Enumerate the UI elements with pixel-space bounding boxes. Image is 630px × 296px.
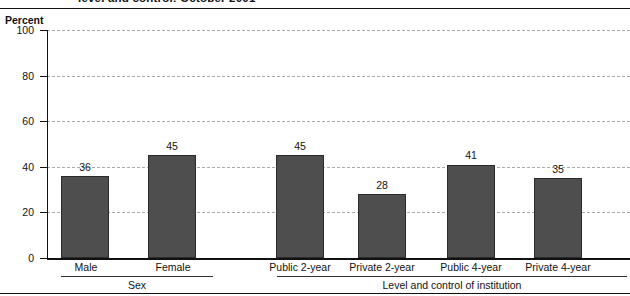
y-tick-label-0: 0 [0,252,34,264]
bar-value-private-4-year: 35 [534,163,582,175]
plot-area: 36 45 45 28 41 35 [47,30,630,258]
y-tick-100 [40,30,48,31]
y-tick-20 [40,212,48,213]
category-label-male: Male [46,261,126,273]
group-label-sex: Sex [61,279,213,291]
category-label-public-2-year: Public 2-year [254,261,346,273]
bar-value-male: 36 [61,161,109,173]
category-label-female: Female [133,261,213,273]
bar-private-4-year [534,178,582,258]
x-axis-line [47,258,630,260]
y-tick-label-100: 100 [0,24,34,36]
y-tick-80 [40,76,48,77]
figure-title-clipped: level and control: October 2001 [78,0,548,2]
gridline-100 [47,30,630,31]
y-tick-label-60: 60 [0,115,34,127]
y-tick-0 [40,258,48,259]
gridline-80 [47,76,630,77]
bar-chart-figure: level and control: October 2001 Percent … [0,0,630,296]
y-tick-label-80: 80 [0,70,34,82]
y-tick-label-20: 20 [0,206,34,218]
title-divider [0,8,630,9]
group-rule-level-and-control [277,276,627,277]
bar-public-4-year [447,165,495,258]
figure-bottom-border [0,293,630,294]
bar-female [148,155,196,258]
bar-private-2-year [358,194,406,258]
group-label-level-and-control: Level and control of institution [277,279,627,291]
bar-value-public-2-year: 45 [276,140,324,152]
gridline-60 [47,121,630,122]
bar-value-public-4-year: 41 [447,149,495,161]
y-tick-60 [40,121,48,122]
bar-value-private-2-year: 28 [358,179,406,191]
category-label-private-2-year: Private 2-year [336,261,428,273]
category-label-private-4-year: Private 4-year [512,261,604,273]
y-tick-label-40: 40 [0,161,34,173]
group-rule-sex [61,276,213,277]
category-label-public-4-year: Public 4-year [425,261,517,273]
bar-male [61,176,109,258]
bar-public-2-year [276,155,324,258]
bar-value-female: 45 [148,140,196,152]
y-tick-40 [40,167,48,168]
